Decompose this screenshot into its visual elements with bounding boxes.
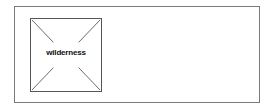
image-alt-text: wilderness (31, 48, 101, 57)
broken-image-placeholder[interactable]: wilderness (30, 18, 102, 92)
